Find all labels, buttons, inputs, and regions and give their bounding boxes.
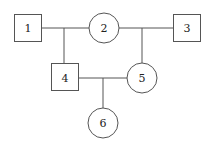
pedigree-diagram: 1 2 3 4 5 6	[0, 0, 211, 143]
node-4-label: 4	[62, 72, 69, 85]
node-3-label: 3	[184, 22, 191, 35]
node-2-label: 2	[101, 22, 108, 35]
node-1-label: 1	[25, 22, 32, 35]
node-6-label: 6	[100, 117, 107, 130]
node-5-label: 5	[139, 72, 146, 85]
